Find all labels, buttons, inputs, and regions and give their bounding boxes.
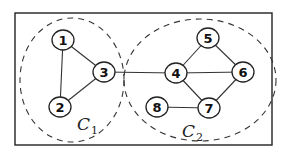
node-2: 2	[49, 97, 71, 117]
edges-layer	[60, 38, 243, 108]
node-3: 3	[93, 62, 115, 82]
node-label: 4	[171, 66, 180, 81]
cluster-labels-layer: C1C2	[77, 114, 203, 144]
cluster-label-c1: C1	[77, 114, 98, 137]
node-label: 5	[203, 31, 212, 46]
node-4: 4	[165, 63, 187, 83]
node-label: 1	[58, 33, 67, 48]
node-6: 6	[232, 62, 254, 82]
node-1: 1	[52, 30, 74, 50]
node-5: 5	[197, 28, 219, 48]
node-label: 8	[152, 100, 161, 115]
node-8: 8	[146, 97, 168, 117]
node-label: 7	[204, 101, 213, 116]
node-label: 3	[99, 65, 108, 80]
node-label: 6	[238, 65, 247, 80]
diagram-frame	[15, 13, 272, 145]
cluster-label-c2: C2	[182, 121, 203, 144]
node-7: 7	[198, 98, 220, 118]
graph-diagram: 12345678 C1C2	[0, 0, 286, 153]
node-label: 2	[55, 100, 64, 115]
